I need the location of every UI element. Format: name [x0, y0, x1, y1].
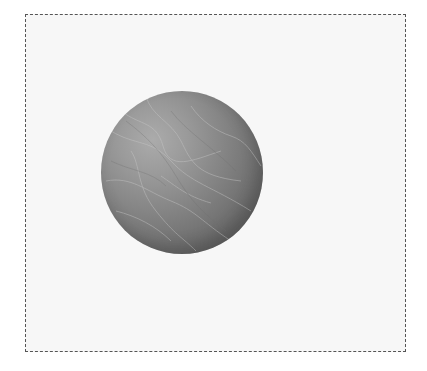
marble-sphere — [101, 91, 263, 254]
marble-texture — [101, 91, 263, 254]
